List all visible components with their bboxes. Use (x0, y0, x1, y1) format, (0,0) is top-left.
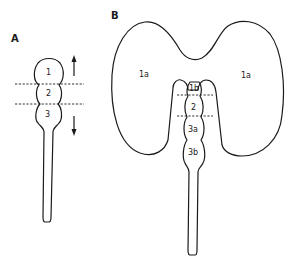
panel-b-segment-1b: 1b (189, 84, 199, 93)
panel-b-lobe-label-right: 1a (241, 71, 251, 80)
arrow-up-icon (72, 55, 77, 76)
panel-b-segment-3a: 3a (188, 125, 198, 134)
panel-a-label: A (11, 33, 19, 44)
panel-a-segment-3: 3 (45, 110, 50, 119)
panel-a-segment-2: 2 (46, 89, 51, 98)
panel-b-label: B (111, 10, 119, 21)
panel-b: B 1a 1a 1b 2 3a 3b (111, 10, 284, 255)
panel-b-segment-3b: 3b (188, 148, 198, 157)
panel-a: A 1 2 3 (11, 33, 84, 222)
panel-b-segment-2: 2 (191, 103, 196, 112)
panel-b-lobe-label-left: 1a (139, 70, 149, 79)
arrow-down-icon (72, 116, 77, 136)
panel-a-body-outline (34, 59, 63, 223)
panel-a-segment-1: 1 (46, 68, 51, 77)
figure: A 1 2 3 B 1a 1a 1b 2 (0, 0, 293, 266)
